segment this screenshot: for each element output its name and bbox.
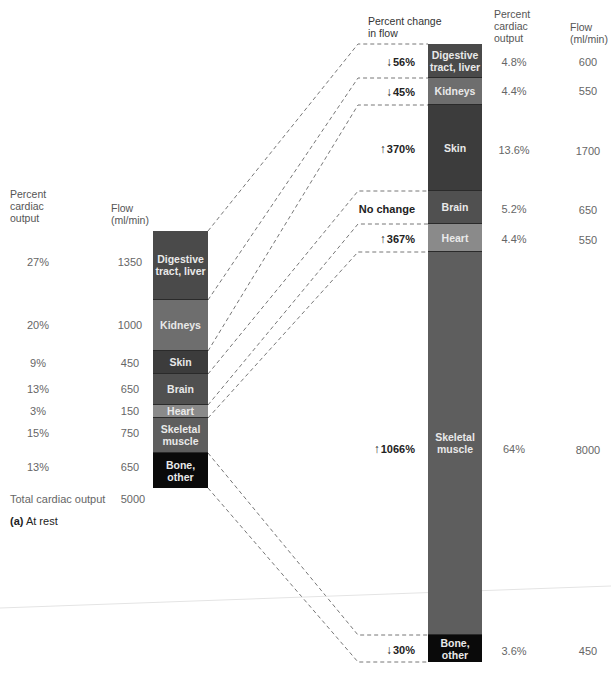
caption-text: At rest	[26, 515, 58, 527]
rest-percent-skin: 9%	[18, 357, 58, 369]
rest-flow-skeletal: 750	[110, 427, 150, 439]
exercise-percent-brain: 5.2%	[494, 203, 534, 215]
header-line: Percent change	[368, 15, 442, 27]
left-header-percent: Percent cardiac output	[10, 188, 46, 224]
rest-flow-brain: 650	[110, 383, 150, 395]
change-brain: No change	[345, 203, 415, 215]
rest-flow-digestive: 1350	[110, 256, 150, 268]
rest-segment-skeletal: Skeletalmuscle	[153, 418, 208, 453]
exercise-percent-digestive: 4.8%	[494, 56, 534, 68]
arrow-down-icon: ↓	[386, 85, 392, 99]
exercise-flow-brain: 650	[570, 204, 606, 216]
rest-segment-skin: Skin	[153, 351, 208, 374]
rest-segment-bone: Bone,other	[153, 453, 208, 488]
exercise-flow-skeletal: 8000	[570, 444, 606, 456]
exercise-segment-heart: Heart	[428, 224, 482, 252]
caption-at-rest: (a) At rest	[10, 515, 58, 527]
exercise-flow-digestive: 600	[570, 56, 606, 68]
rest-segment-digestive: Digestivetract, liver	[153, 231, 208, 300]
rest-flow-bone: 650	[110, 461, 150, 473]
header-line: cardiac	[10, 200, 46, 212]
exercise-segment-bone: Bone,other	[428, 635, 482, 662]
rest-bar: Digestivetract, liver Kidneys Skin Brain…	[153, 231, 208, 488]
header-line: Percent	[10, 188, 46, 200]
arrow-up-icon: ↑	[380, 142, 386, 156]
arrow-down-icon: ↓	[386, 643, 392, 657]
exercise-flow-bone: 450	[570, 645, 606, 657]
rest-flow-kidneys: 1000	[110, 319, 150, 331]
connector-lines	[0, 0, 611, 674]
header-line: in flow	[368, 27, 442, 39]
header-line: Percent	[494, 8, 530, 20]
rest-segment-brain: Brain	[153, 374, 208, 405]
arrow-up-icon: ↑	[380, 232, 386, 246]
exercise-bar: Digestivetract, liver Kidneys Skin Brain…	[428, 44, 482, 662]
header-line: Flow	[111, 202, 149, 214]
header-line: (ml/min)	[111, 214, 149, 226]
exercise-segment-skin: Skin	[428, 105, 482, 191]
change-heart: ↑367%	[345, 232, 415, 246]
rest-percent-skeletal: 15%	[18, 427, 58, 439]
rest-segment-kidneys: Kidneys	[153, 300, 208, 351]
exercise-segment-skeletal: Skeletalmuscle	[428, 252, 482, 635]
exercise-percent-heart: 4.4%	[494, 233, 534, 245]
total-cardiac-output-value: 5000	[116, 493, 150, 505]
exercise-percent-skeletal: 64%	[494, 443, 534, 455]
rest-percent-heart: 3%	[18, 405, 58, 417]
rest-percent-brain: 13%	[18, 383, 58, 395]
arrow-up-icon: ↑	[374, 442, 380, 456]
right-header-percent: Percent cardiac output	[494, 8, 530, 44]
rest-percent-bone: 13%	[18, 461, 58, 473]
rest-percent-kidneys: 20%	[18, 319, 58, 331]
change-kidneys: ↓45%	[345, 85, 415, 99]
exercise-flow-skin: 1700	[570, 145, 606, 157]
exercise-flow-heart: 550	[570, 234, 606, 246]
exercise-flow-kidneys: 550	[570, 85, 606, 97]
exercise-percent-skin: 13.6%	[494, 144, 534, 156]
arrow-down-icon: ↓	[386, 55, 392, 69]
exercise-percent-bone: 3.6%	[494, 645, 534, 657]
exercise-segment-digestive: Digestivetract, liver	[428, 44, 482, 78]
header-line: (ml/min)	[570, 33, 608, 45]
right-header-flow: Flow (ml/min)	[570, 21, 608, 45]
header-line: cardiac	[494, 20, 530, 32]
total-cardiac-output-label: Total cardiac output	[10, 493, 105, 505]
caption-letter: (a)	[10, 515, 23, 527]
change-bone: ↓30%	[345, 643, 415, 657]
change-skeletal: ↑1066%	[345, 442, 415, 456]
header-line: Flow	[570, 21, 608, 33]
change-digestive: ↓56%	[345, 55, 415, 69]
exercise-segment-brain: Brain	[428, 191, 482, 224]
right-header-change: Percent change in flow	[368, 15, 442, 39]
exercise-segment-kidneys: Kidneys	[428, 78, 482, 105]
header-line: output	[494, 32, 530, 44]
header-line: output	[10, 212, 46, 224]
rest-segment-heart: Heart	[153, 405, 208, 418]
rest-percent-digestive: 27%	[18, 256, 58, 268]
exercise-percent-kidneys: 4.4%	[494, 85, 534, 97]
change-skin: ↑370%	[345, 142, 415, 156]
rest-flow-heart: 150	[110, 405, 150, 417]
rest-flow-skin: 450	[110, 357, 150, 369]
left-header-flow: Flow (ml/min)	[111, 202, 149, 226]
